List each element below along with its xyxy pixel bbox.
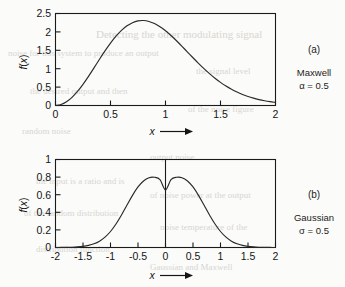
maxwell-distribution-name: Maxwell	[284, 67, 344, 78]
maxwell-ytick-1: 0.5	[36, 81, 51, 93]
maxwell-x-ticklabels: 0 0.5 1 1.5 2	[53, 108, 279, 120]
maxwell-x-axis-arrow-icon	[160, 128, 193, 135]
maxwell-annotation-block: (a) Maxwell α = 0.5	[284, 44, 344, 91]
maxwell-y-axis-label: f(x)	[17, 54, 29, 69]
maxwell-curve	[56, 20, 276, 105]
gaussian-ytick-1: 0.2	[36, 224, 51, 236]
gaussian-ytick-3: 0.6	[36, 189, 51, 201]
maxwell-ytick-0: 0	[45, 99, 51, 111]
gaussian-parameter-label: σ = 0.5	[284, 225, 344, 236]
maxwell-y-ticks	[56, 14, 61, 106]
gaussian-x-axis-arrow-icon	[160, 272, 193, 279]
gaussian-xtick-1: -1.5	[74, 250, 92, 262]
gaussian-y-ticks	[56, 160, 61, 248]
maxwell-ytick-2: 1	[45, 63, 51, 75]
maxwell-parameter-label: α = 0.5	[284, 80, 344, 91]
maxwell-ytick-4: 2	[45, 26, 51, 38]
gaussian-panel-tag: (b)	[284, 189, 344, 200]
gaussian-x-axis-label: x	[148, 269, 155, 281]
gaussian-distribution-name: Gaussian	[284, 212, 344, 223]
chart-gaussian: -2 -1.5 -1 -0.5 0 0.5 1 1.5 2 0 0.2 0.4 …	[0, 143, 345, 287]
gaussian-y-ticklabels: 0 0.2 0.4 0.6 0.8 1	[36, 153, 51, 253]
maxwell-xtick-2: 1	[163, 108, 169, 120]
chart-maxwell: 0 0.5 1 1.5 2 0 0.5 1 1.5 2 2.5 f(x) wit…	[0, 0, 345, 143]
maxwell-panel-tag: (a)	[284, 44, 344, 55]
gaussian-xtick-4: 0	[163, 250, 169, 262]
maxwell-xtick-1: 0.5	[103, 108, 118, 120]
gaussian-xtick-3: -0.5	[129, 250, 147, 262]
gaussian-xtick-7: 1.5	[241, 250, 256, 262]
maxwell-xtick-0: 0	[53, 108, 59, 120]
maxwell-x-axis-label: x	[148, 125, 155, 137]
gaussian-xtick-5: 0.5	[186, 250, 201, 262]
gaussian-ytick-0: 0	[45, 241, 51, 253]
gaussian-x-ticklabels: -2 -1.5 -1 -0.5 0 0.5 1 1.5 2	[51, 250, 279, 262]
maxwell-y-ticklabels: 0 0.5 1 1.5 2 2.5	[36, 7, 51, 111]
maxwell-ytick-5: 2.5	[36, 7, 51, 19]
figure-page: Detecting the other modulating signalnoi…	[0, 0, 345, 287]
maxwell-xtick-3: 1.5	[213, 108, 228, 120]
gaussian-xtick-8: 2	[273, 250, 279, 262]
gaussian-ytick-2: 0.4	[36, 206, 51, 218]
gaussian-annotation-block: (b) Gaussian σ = 0.5	[284, 189, 344, 236]
maxwell-xtick-4: 2	[273, 108, 279, 120]
gaussian-ytick-5: 1	[45, 153, 51, 165]
gaussian-xtick-2: -1	[106, 250, 115, 262]
gaussian-ytick-4: 0.8	[36, 171, 51, 183]
maxwell-x-ticks	[56, 101, 276, 106]
gaussian-y-axis-label: f(x)	[17, 197, 29, 212]
maxwell-ytick-3: 1.5	[36, 44, 51, 56]
gaussian-xtick-0: -2	[51, 250, 60, 262]
gaussian-xtick-6: 1	[218, 250, 224, 262]
maxwell-plot-frame	[56, 14, 276, 106]
